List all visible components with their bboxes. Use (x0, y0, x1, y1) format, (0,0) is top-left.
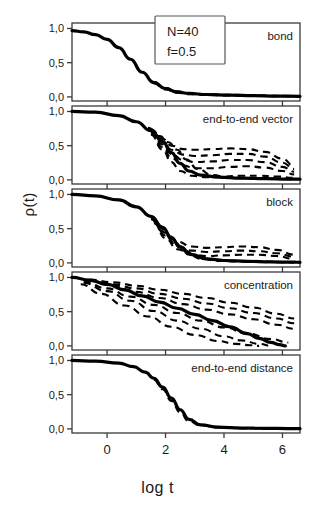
y-tick-label: 0,5 (49, 306, 64, 318)
panel-concentration: 1,00,50,0concentration (49, 271, 300, 355)
panel-label: end-to-end vector (203, 113, 293, 125)
y-tick-label: 0,5 (49, 140, 64, 152)
panel-label: concentration (224, 279, 293, 291)
y-tick-label: 0,0 (49, 91, 64, 103)
panel-label: bond (267, 30, 293, 42)
curve-e2e-distance-spread (154, 380, 288, 429)
panel-end-to-end-vector: 1,00,50,0end-to-end vector (49, 105, 300, 189)
x-tick-label: 4 (220, 442, 227, 457)
y-tick-label: 0,5 (49, 389, 64, 401)
panel-label: end-to-end distance (191, 362, 293, 374)
y-tick-label: 0,5 (49, 57, 64, 69)
y-tick-label: 0,0 (49, 257, 64, 269)
panel-end-to-end-distance: 1,00,50,00246end-to-end distance (49, 354, 300, 457)
annotation-box: N=40f=0.5 (155, 16, 225, 64)
x-tick-label: 6 (279, 442, 286, 457)
x-tick-label: 0 (103, 442, 110, 457)
curve-bond-spread-1 (154, 82, 300, 96)
panel-label: block (266, 196, 293, 208)
annotation-line-2: f=0.5 (167, 44, 196, 59)
figure-root: ρ(t) log t 1,00,50,0bond1,00,50,0end-to-… (0, 0, 315, 512)
curve-e2e-vector-branch-5 (151, 135, 294, 178)
y-tick-label: 0,0 (49, 423, 64, 435)
x-tick-label: 2 (162, 442, 169, 457)
annotation-line-1: N=40 (167, 24, 198, 39)
panel-block: 1,00,50,0block (49, 188, 300, 272)
y-tick-label: 0,0 (49, 340, 64, 352)
y-tick-label: 0,5 (49, 223, 64, 235)
y-axis-label: ρ(t) (20, 175, 37, 235)
y-tick-label: 1,0 (49, 22, 64, 34)
x-axis-label: log t (0, 479, 315, 497)
y-tick-label: 0,0 (49, 174, 64, 186)
multi-panel-plot: 1,00,50,0bond1,00,50,0end-to-end vector1… (0, 0, 315, 512)
y-tick-label: 1,0 (49, 354, 64, 366)
y-tick-label: 1,0 (49, 271, 64, 283)
y-tick-label: 1,0 (49, 105, 64, 117)
curve-block-branch-1 (154, 220, 294, 254)
y-tick-label: 1,0 (49, 188, 64, 200)
